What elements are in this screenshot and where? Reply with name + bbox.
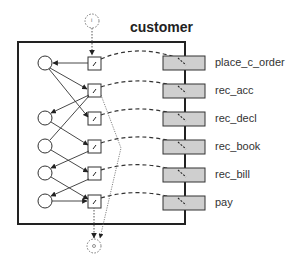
arcs (49, 63, 89, 201)
input-place[interactable] (85, 14, 99, 28)
place-5[interactable] (38, 194, 52, 208)
place-4[interactable] (38, 166, 52, 180)
place-1[interactable] (38, 56, 52, 70)
output-place[interactable] (87, 239, 101, 253)
place-2[interactable] (38, 111, 52, 125)
place-3[interactable] (38, 139, 52, 153)
workflow-diagram (0, 0, 289, 267)
transitions (88, 57, 101, 208)
